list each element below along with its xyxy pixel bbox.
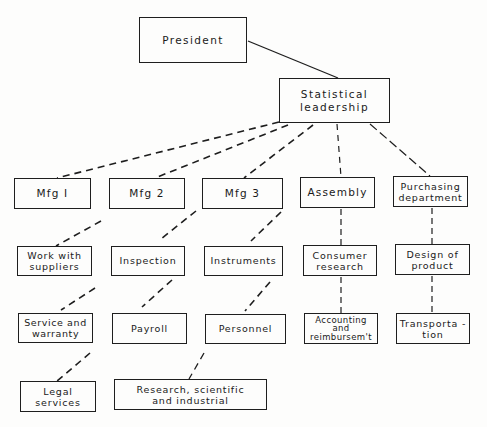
edge-personnel-research — [189, 353, 204, 379]
edge-statistical-mfg2 — [155, 125, 288, 178]
node-mfg-1: Mfg I — [14, 178, 91, 209]
node-assembly: Assembly — [300, 177, 375, 208]
edge-statistical-purchasing — [370, 124, 430, 176]
edge-inspection-payroll — [142, 280, 172, 307]
node-consumer-research: Consumer research — [303, 245, 377, 276]
edge-mfg3-inspection — [161, 211, 196, 239]
edge-instruments-personnel — [245, 282, 270, 311]
edge-work-service-warranty — [61, 288, 95, 310]
node-personnel: Personnel — [205, 314, 286, 344]
node-work-with-suppliers: Work with suppliers — [17, 246, 92, 276]
edge-mfg2-work-with-suppliers — [56, 221, 101, 246]
edge-president-statistical — [248, 41, 338, 78]
node-mfg-2: Mfg 2 — [109, 178, 185, 209]
node-accounting-and-reimbursement: Accounting and reimbursem't — [304, 313, 378, 344]
node-legal-services: Legal services — [20, 381, 96, 412]
node-statistical-leadership: Statistical leadership — [279, 78, 390, 123]
node-instruments: Instruments — [204, 246, 283, 276]
node-payroll: Payroll — [112, 313, 187, 344]
connector-lines — [0, 0, 487, 427]
node-service-and-warranty: Service and warranty — [18, 313, 93, 343]
edge-mfg3-instruments — [251, 212, 281, 241]
org-chart-canvas: President Statistical leadership Mfg I M… — [0, 0, 487, 427]
edge-service-legal — [57, 353, 90, 381]
node-purchasing-department: Purchasing department — [393, 176, 468, 207]
edge-statistical-assembly — [337, 124, 341, 177]
node-transportation: Transporta - tion — [396, 313, 470, 344]
node-design-of-product: Design of product — [395, 244, 470, 275]
edge-statistical-mfg1 — [57, 122, 279, 178]
node-president: President — [139, 17, 247, 63]
node-mfg-3: Mfg 3 — [202, 178, 283, 209]
edge-statistical-mfg3 — [244, 125, 313, 178]
node-inspection: Inspection — [111, 246, 185, 276]
node-research-scientific-industrial: Research, scientific and industrial — [114, 379, 267, 410]
